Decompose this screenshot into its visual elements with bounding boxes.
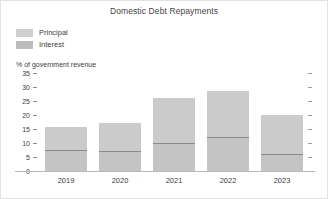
x-axis-line bbox=[15, 171, 315, 172]
bar-segment-principal[interactable] bbox=[207, 91, 249, 137]
y-tick-label: 10 bbox=[15, 140, 30, 147]
x-axis-label-2022: 2022 bbox=[207, 175, 249, 189]
bar-segment-interest[interactable] bbox=[207, 137, 249, 171]
chart-container: Domestic Debt Repayments Principal Inter… bbox=[0, 0, 328, 199]
x-axis-label-2023: 2023 bbox=[261, 175, 303, 189]
bar-segment-interest[interactable] bbox=[99, 151, 141, 171]
y-tick-mark-left bbox=[33, 129, 37, 130]
y-axis-caption: % of government revenue bbox=[16, 61, 96, 68]
bar-segment-principal[interactable] bbox=[261, 115, 303, 154]
x-axis-label-2019: 2019 bbox=[45, 175, 87, 189]
y-tick-mark-left bbox=[33, 157, 37, 158]
chart-title: Domestic Debt Repayments bbox=[1, 6, 327, 16]
bar-segment-interest[interactable] bbox=[153, 143, 195, 171]
x-axis-label-2021: 2021 bbox=[153, 175, 195, 189]
bar-group-2021[interactable] bbox=[153, 73, 195, 171]
bar-group-2023[interactable] bbox=[261, 73, 303, 171]
legend-label-principal: Principal bbox=[39, 28, 68, 37]
y-tick-label: 30 bbox=[15, 84, 30, 91]
legend-swatch-interest bbox=[16, 41, 33, 49]
legend-swatch-principal bbox=[16, 29, 33, 37]
legend-label-interest: Interest bbox=[39, 40, 64, 49]
bar-segment-interest[interactable] bbox=[45, 150, 87, 171]
bar-segment-principal[interactable] bbox=[99, 123, 141, 151]
y-tick-mark-left bbox=[33, 143, 37, 144]
y-tick-mark-left bbox=[33, 101, 37, 102]
bar-group-2020[interactable] bbox=[99, 73, 141, 171]
chart-legend: Principal Interest bbox=[16, 27, 68, 51]
x-axis-labels: 20192020202120222023 bbox=[39, 175, 309, 189]
y-tick-label: 25 bbox=[15, 98, 30, 105]
y-tick-label: 15 bbox=[15, 126, 30, 133]
bar-group-2019[interactable] bbox=[45, 73, 87, 171]
y-tick-label: 20 bbox=[15, 112, 30, 119]
bar-group-2022[interactable] bbox=[207, 73, 249, 171]
y-tick-mark-left bbox=[33, 87, 37, 88]
bar-segment-interest[interactable] bbox=[261, 154, 303, 171]
y-tick-mark-left bbox=[33, 73, 37, 74]
bar-segment-principal[interactable] bbox=[45, 127, 87, 150]
y-tick-label: 35 bbox=[15, 70, 30, 77]
bar-segment-principal[interactable] bbox=[153, 98, 195, 143]
y-tick-mark-left bbox=[33, 115, 37, 116]
bar-series bbox=[39, 73, 309, 171]
legend-item-principal[interactable]: Principal bbox=[16, 27, 68, 38]
plot-area: 35302520151050 bbox=[15, 73, 315, 177]
legend-item-interest[interactable]: Interest bbox=[16, 39, 68, 50]
x-axis-label-2020: 2020 bbox=[99, 175, 141, 189]
y-tick-label: 5 bbox=[15, 154, 30, 161]
